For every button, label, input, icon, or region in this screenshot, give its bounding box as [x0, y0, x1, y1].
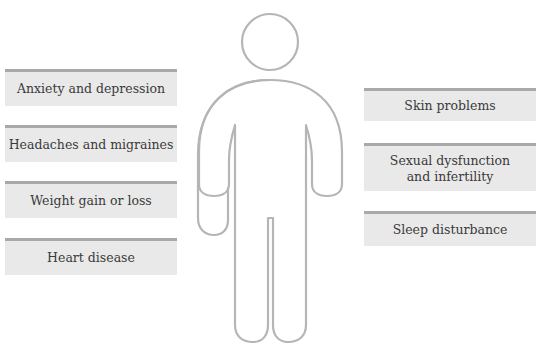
label-text: Weight gain or loss	[30, 193, 152, 209]
label-text: Anxiety and depression	[17, 81, 165, 97]
label-text: Skin problems	[404, 98, 495, 114]
label-headaches-migraines: Headaches and migraines	[5, 125, 177, 162]
label-heart-disease: Heart disease	[5, 238, 177, 275]
label-sexual-dysfunction-infertility: Sexual dysfunction and infertility	[364, 143, 536, 191]
label-text: Sexual dysfunction and infertility	[390, 153, 510, 185]
label-anxiety-depression: Anxiety and depression	[5, 69, 177, 106]
label-skin-problems: Skin problems	[364, 88, 536, 121]
label-weight-gain-loss: Weight gain or loss	[5, 181, 177, 218]
label-text: Heart disease	[47, 250, 135, 266]
label-text: Headaches and migraines	[9, 137, 174, 153]
label-text: Sleep disturbance	[393, 222, 508, 238]
label-sleep-disturbance: Sleep disturbance	[364, 211, 536, 246]
